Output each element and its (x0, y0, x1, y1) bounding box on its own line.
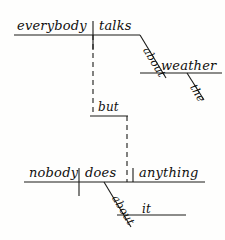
sentence-diagram: everybody talks about weather the but no… (0, 0, 225, 240)
word-weather: weather (161, 59, 216, 72)
word-anything: anything (139, 166, 199, 179)
word-it: it (142, 203, 151, 215)
word-talks: talks (99, 19, 132, 32)
word-but: but (98, 101, 119, 113)
word-does: does (85, 166, 116, 179)
word-everybody: everybody (17, 19, 87, 32)
word-nobody: nobody (29, 166, 78, 179)
